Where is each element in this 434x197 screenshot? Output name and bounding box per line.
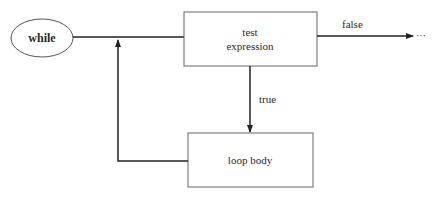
loop-body-node: loop body bbox=[188, 133, 313, 187]
loop-back-arrow bbox=[118, 40, 188, 161]
continuation-dots: ··· bbox=[416, 30, 426, 41]
test-label-line2: expression bbox=[226, 40, 274, 52]
false-label: false bbox=[342, 18, 363, 30]
test-expression-node: test expression bbox=[184, 12, 317, 66]
loop-body-label: loop body bbox=[228, 154, 273, 166]
flowchart: while test expression false ··· true loo… bbox=[0, 0, 434, 197]
while-node: while bbox=[11, 19, 73, 57]
while-label: while bbox=[28, 31, 56, 45]
true-label: true bbox=[259, 93, 276, 105]
test-label-line1: test bbox=[242, 26, 257, 38]
